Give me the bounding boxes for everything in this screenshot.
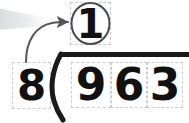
- dividend-digit[interactable]: 9: [71, 62, 111, 108]
- dividend-digit[interactable]: 6: [111, 62, 147, 108]
- long-division-worksheet: 1 8 9 6 3: [0, 0, 189, 123]
- dividend-digit[interactable]: 3: [147, 62, 183, 108]
- divisor-digit[interactable]: 8: [12, 62, 51, 109]
- quotient-digit[interactable]: 1: [70, 2, 111, 45]
